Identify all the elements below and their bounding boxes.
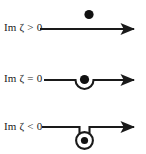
contour-graphics [0, 0, 146, 154]
contour-line-2-indented [44, 80, 134, 89]
contour-group-im-zeta-positive [40, 10, 134, 29]
contour-line-3-right [90, 127, 135, 134]
contour-group-im-zeta-zero [44, 75, 134, 89]
pole-dot-3 [81, 137, 88, 144]
contour-line-3-left [42, 127, 80, 134]
pole-dot-1 [84, 10, 93, 19]
contour-group-im-zeta-negative [42, 127, 134, 149]
pole-dot-2 [80, 75, 89, 84]
contour-diagram: Im ζ > 0 Im ζ = 0 Im ζ < 0 [0, 0, 146, 154]
